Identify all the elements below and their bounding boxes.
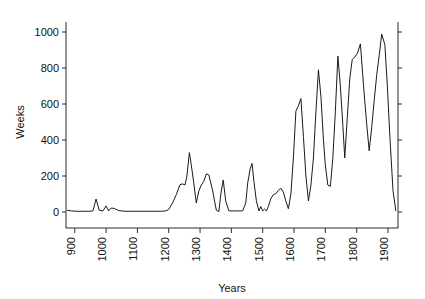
y-tick-label: 1000 [35,26,59,38]
x-tick-label: 1700 [315,237,327,261]
y-axis-title: Weeks [14,105,26,139]
data-series-weeks [67,34,396,211]
y-axis-tick-labels: 02004006008001000 [35,26,59,218]
x-tick-label: 1400 [221,237,233,261]
y-tick-label: 800 [41,62,59,74]
right-axis [398,22,402,228]
y-tick-label: 400 [41,134,59,146]
y-tick-label: 200 [41,170,59,182]
x-axis-title: Years [218,282,246,294]
series-line [67,34,396,211]
x-axis-tick-labels: 9001000110012001300140015001600170018001… [65,237,390,261]
x-tick-label: 1600 [284,237,296,261]
x-tick-label: 1800 [347,237,359,261]
y-tick-label: 600 [41,98,59,110]
x-tick-label: 1100 [127,237,139,261]
x-tick-label: 1900 [378,237,390,261]
x-tick-label: 1200 [159,237,171,261]
y-axis [62,22,66,228]
x-axis [66,228,398,233]
x-tick-label: 1300 [190,237,202,261]
x-tick-label: 900 [65,237,77,255]
x-tick-label: 1000 [96,237,108,261]
y-tick-label: 0 [53,206,59,218]
chart-container: 02004006008001000 9001000110012001300140… [0,0,425,299]
x-tick-label: 1500 [253,237,265,261]
line-chart-plot: 02004006008001000 9001000110012001300140… [0,0,425,299]
